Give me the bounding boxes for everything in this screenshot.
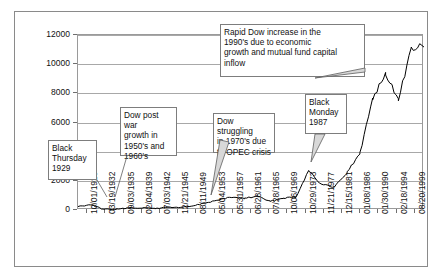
leader-line: [97, 180, 107, 197]
leader-line: [211, 140, 229, 195]
leader-line: [311, 134, 325, 162]
chart-frame: 120001000080006000400020000 10/01/192803…: [14, 11, 428, 267]
leader-line: [115, 156, 127, 197]
leader-line: [315, 68, 365, 78]
annotation-leader-lines: [15, 12, 429, 268]
